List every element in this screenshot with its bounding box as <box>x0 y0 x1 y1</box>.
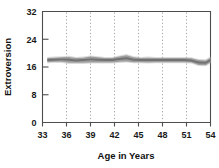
y-tick-label-24: 24 <box>26 35 36 45</box>
extroversion-vs-age-chart: 32241680 3336394245485154 Extroversion A… <box>0 0 219 168</box>
y-tick-label-16: 16 <box>26 62 36 72</box>
y-tick-label-8: 8 <box>31 90 36 100</box>
y-tick-label-32: 32 <box>26 7 36 17</box>
y-tick-label-0: 0 <box>31 118 36 128</box>
x-tick-label-33: 33 <box>37 130 47 140</box>
y-axis-label: Extroversion <box>2 38 13 96</box>
chart-container: 32241680 3336394245485154 Extroversion A… <box>0 0 219 168</box>
x-tick-label-45: 45 <box>133 130 143 140</box>
x-tick-label-42: 42 <box>109 130 119 140</box>
x-tick-label-39: 39 <box>85 130 95 140</box>
x-axis-label: Age in Years <box>98 150 155 161</box>
x-tick-label-48: 48 <box>157 130 167 140</box>
x-tick-label-51: 51 <box>181 130 191 140</box>
x-tick-label-54: 54 <box>205 130 215 140</box>
x-tick-label-36: 36 <box>61 130 71 140</box>
